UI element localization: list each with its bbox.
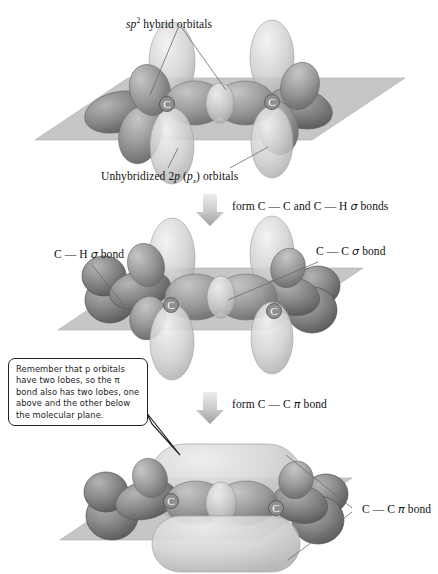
callout-line-2: have two lobes, so the π	[16, 375, 141, 386]
carbon-atom-left-panel3: C	[164, 494, 179, 509]
svg-text:C: C	[272, 502, 279, 514]
arrow-2-label: form C — C π bond	[232, 398, 327, 411]
label-unhybridized-2p-orbitals: Unhybridized 2p (pz) orbitals	[101, 170, 238, 185]
label-sp2-hybrid-orbitals: sp2 hybrid orbitals	[126, 16, 212, 30]
carbon-atom-right-panel1: C	[265, 95, 280, 110]
carbon-atom-right-panel3: C	[269, 501, 284, 516]
carbon-atom-right-panel2: C	[267, 304, 282, 319]
svg-text:C: C	[167, 495, 174, 507]
label-cc-sigma-bond: C — C σ bond	[316, 245, 386, 258]
callout-line-4: above and the other below	[16, 398, 141, 409]
callout-line-5: the molecular plane.	[16, 410, 141, 421]
transition-arrow-1	[196, 194, 224, 226]
panel-1-graphic: C C	[0, 0, 438, 574]
label-cc-pi-bond: C — C π bond	[362, 503, 431, 516]
svg-text:C: C	[167, 299, 174, 311]
transition-arrow-2	[196, 392, 224, 424]
svg-text:C: C	[268, 96, 275, 108]
orbital-diagram-figure: C C	[0, 0, 438, 574]
callout-tail	[146, 412, 180, 455]
carbon-atom-left-panel2: C	[164, 298, 179, 313]
svg-text:C: C	[163, 98, 170, 110]
arrow-1-label: form C — C and C — H σ bonds	[232, 200, 388, 213]
callout-line-3: bond also has two lobes, one	[16, 387, 141, 398]
label-ch-sigma-bond: C — H σ bond	[54, 248, 124, 261]
pi-cloud-lower-panel3	[152, 516, 300, 572]
svg-text:C: C	[270, 305, 277, 317]
carbon-atom-left-panel1: C	[160, 97, 175, 112]
callout-note: Remember that p orbitals have two lobes,…	[8, 358, 148, 426]
callout-line-1: Remember that p orbitals	[16, 364, 141, 375]
